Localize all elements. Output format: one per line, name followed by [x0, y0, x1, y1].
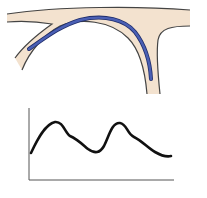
waveform-line: [31, 122, 171, 156]
diagram-canvas: [0, 0, 207, 198]
vessel-shape: [7, 7, 190, 94]
vessel-illustration: [0, 0, 207, 100]
waveform-chart: [0, 95, 207, 193]
vessel-right-branch-edge: [157, 26, 190, 94]
